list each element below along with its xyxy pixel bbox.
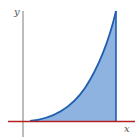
shaded-area bbox=[30, 11, 116, 121]
plot-canvas bbox=[0, 0, 138, 139]
y-axis-label: y bbox=[14, 7, 20, 17]
area-under-curve-figure: y x bbox=[0, 0, 138, 139]
x-axis-label: x bbox=[124, 124, 130, 134]
